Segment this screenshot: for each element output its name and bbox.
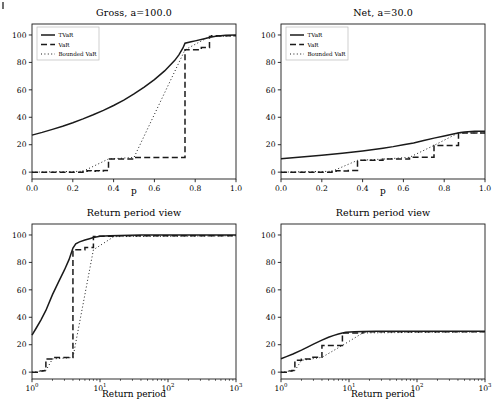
series-line-bounded-var	[281, 332, 485, 372]
y-tick-label: 80	[266, 258, 276, 267]
chart-panel-net-return-period: Return period viewReturn period020406080…	[0, 0, 501, 420]
series-line-tvar	[281, 331, 485, 359]
series-line-var	[281, 332, 485, 372]
y-tick-label: 60	[266, 286, 276, 295]
scan-artifact-mark	[2, 2, 4, 9]
x-tick-label: 102	[410, 382, 423, 392]
x-tick-label: 100	[274, 382, 288, 392]
plot-area-net-return-period: 020406080100100101102103	[0, 0, 501, 420]
y-tick-label: 100	[261, 231, 276, 240]
y-tick-label: 20	[266, 340, 276, 349]
x-tick-label: 103	[478, 382, 492, 392]
axes-frame	[281, 224, 485, 379]
x-tick-label: 101	[342, 382, 355, 392]
y-tick-label: 0	[271, 368, 276, 377]
y-tick-label: 40	[266, 313, 276, 322]
figure-canvas: Gross, a=100.0p0204060801000.00.20.40.60…	[0, 0, 501, 420]
